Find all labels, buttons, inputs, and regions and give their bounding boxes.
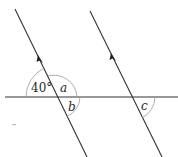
angle-label-40: 40° xyxy=(31,81,52,95)
angle-label-a: a xyxy=(60,81,67,95)
right-parallel-line xyxy=(90,11,162,157)
angle-label-b: b xyxy=(68,100,76,114)
smudge-mark xyxy=(12,124,16,125)
parallel-arrow-icon-right xyxy=(110,53,117,61)
diagram-canvas: 40° a b c xyxy=(0,0,178,157)
angle-label-c: c xyxy=(141,99,148,113)
